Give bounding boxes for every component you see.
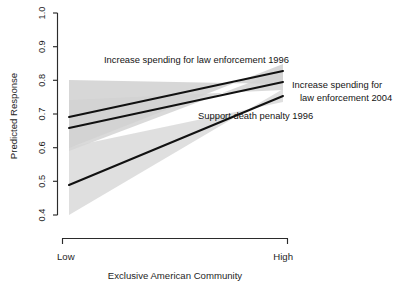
annotation-law-enforcement-1996: Increase spending for law enforcement 19…: [104, 54, 289, 65]
x-tick-label-low: Low: [57, 251, 75, 262]
y-axis-ticks: [53, 13, 58, 215]
x-tick-label-high: High: [273, 251, 293, 262]
y-axis: 1.0 0.9 0.8 0.7 0.6 0.5 0.4 Predicted Re…: [8, 7, 58, 222]
x-axis: Low High Exclusive American Community: [57, 239, 293, 282]
y-axis-title: Predicted Response: [8, 73, 19, 159]
y-tick-label-0-4: 0.4: [37, 209, 47, 222]
y-tick-label-1-0: 1.0: [37, 7, 47, 20]
annotation-death-penalty-1996: Support death penalty 1996: [198, 110, 313, 121]
y-tick-label-0-7: 0.7: [37, 108, 47, 121]
annotation-law-enforcement-2004-line2: law enforcement 2004: [300, 92, 392, 103]
y-tick-label-0-6: 0.6: [37, 141, 47, 154]
chart-canvas: 1.0 0.9 0.8 0.7 0.6 0.5 0.4 Predicted Re…: [0, 0, 415, 289]
y-tick-label-0-8: 0.8: [37, 74, 47, 87]
x-axis-title: Exclusive American Community: [108, 270, 243, 281]
y-tick-label-0-5: 0.5: [37, 175, 47, 188]
chart-figure: 1.0 0.9 0.8 0.7 0.6 0.5 0.4 Predicted Re…: [0, 0, 415, 289]
y-axis-tick-labels: 1.0 0.9 0.8 0.7 0.6 0.5 0.4: [37, 7, 47, 222]
annotation-law-enforcement-2004-line1: Increase spending for: [292, 79, 382, 90]
y-tick-label-0-9: 0.9: [37, 40, 47, 53]
